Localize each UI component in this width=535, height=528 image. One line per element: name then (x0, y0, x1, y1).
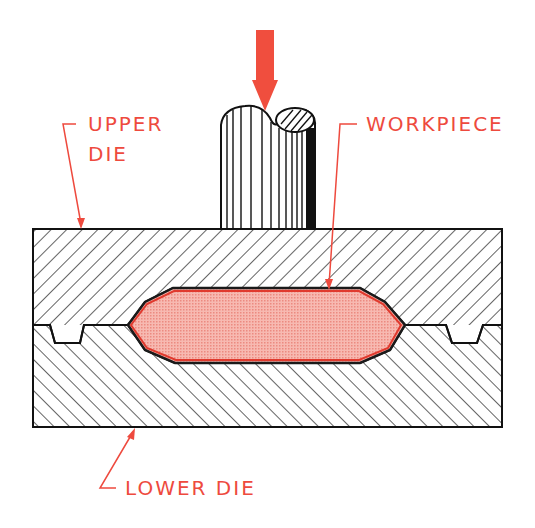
lower-die-label: LOWER DIE (125, 477, 256, 499)
lower-die-arrowhead-icon (127, 428, 135, 440)
workpiece (128, 288, 405, 363)
upper-die-label-line1: UPPER (88, 113, 163, 135)
upper-die-leader (63, 124, 81, 224)
upper-die-label: UPPER DIE (88, 113, 163, 165)
workpiece-label: WORKPIECE (366, 113, 504, 135)
forging-diagram (0, 0, 535, 528)
upper-die-label-line2: DIE (88, 143, 163, 165)
ram (221, 106, 315, 229)
force-arrow-icon (252, 30, 278, 111)
upper-die-arrowhead-icon (77, 218, 85, 229)
